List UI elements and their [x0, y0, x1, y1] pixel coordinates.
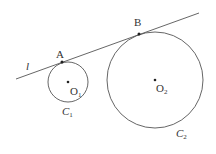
point-label-b: B [134, 16, 141, 28]
tangent-point-b [138, 33, 141, 36]
line-label-l: l [26, 60, 29, 72]
center-point-o2 [154, 79, 157, 82]
tangent-point-a [61, 61, 64, 64]
circle-label-c2: C2 [176, 127, 187, 141]
circle-label-c1: C1 [62, 105, 73, 119]
tangent-line-l [16, 13, 199, 79]
center-point-o1 [67, 81, 70, 84]
center-label-o1: O1 [70, 85, 82, 99]
tangent-circles-diagram: l O1 C1 O2 C2 A B [0, 0, 216, 154]
point-label-a: A [56, 48, 64, 60]
center-label-o2: O2 [156, 82, 168, 96]
